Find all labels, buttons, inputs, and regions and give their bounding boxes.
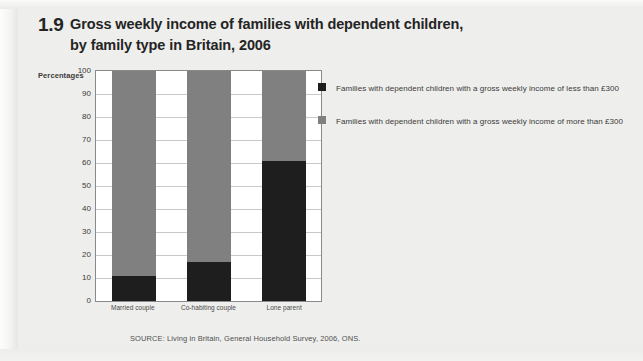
legend-item-2[interactable]: Families with dependent children with a … — [318, 115, 628, 129]
x-axis-label-co-habiting-couple: Co-habiting couple — [173, 304, 243, 311]
x-axis-tick-labels: Married coupleCo-habiting coupleLone par… — [95, 304, 322, 311]
bar-co-habiting-couple[interactable] — [187, 71, 231, 301]
legend-swatch-more-than-300 — [318, 116, 326, 124]
chart-legend: Families with dependent children with a … — [318, 82, 628, 148]
bar-lone-parent[interactable] — [262, 71, 306, 301]
y-axis-tick-100: 100 — [78, 66, 91, 75]
plot-area — [95, 70, 322, 302]
bar-segment-less-than-300[interactable] — [112, 276, 156, 301]
y-axis-tick-60: 60 — [82, 158, 91, 167]
bar-segment-more-than-300[interactable] — [112, 71, 156, 276]
page-top-edge — [0, 0, 643, 9]
y-axis-tick-80: 80 — [82, 112, 91, 121]
y-axis-tick-10: 10 — [82, 273, 91, 282]
figure-number: 1.9 — [38, 14, 70, 35]
bar-married-couple[interactable] — [112, 71, 156, 301]
plot-outer: 1009080706050403020100 Married coupleCo-… — [95, 70, 322, 302]
figure-title-block: 1.9 Gross weekly income of families with… — [38, 14, 468, 56]
figure-page: 1.9 Gross weekly income of families with… — [0, 0, 643, 361]
y-axis-tick-70: 70 — [82, 135, 91, 144]
bar-segment-less-than-300[interactable] — [262, 161, 306, 301]
y-axis-tick-40: 40 — [82, 204, 91, 213]
y-axis-tick-90: 90 — [82, 89, 91, 98]
legend-label-1: Families with dependent children with a … — [336, 82, 619, 96]
legend-swatch-less-than-300 — [318, 83, 326, 91]
page-title: Gross weekly income of families with dep… — [70, 14, 468, 56]
bar-group — [96, 71, 321, 301]
y-axis-tick-0: 0 — [87, 296, 91, 305]
y-axis-tick-labels: 1009080706050403020100 — [71, 70, 91, 300]
page-left-edge — [0, 0, 18, 361]
source-note: SOURCE: Living in Britain, General House… — [130, 334, 360, 343]
bar-segment-more-than-300[interactable] — [262, 71, 306, 161]
x-axis-label-married-couple: Married couple — [98, 304, 168, 311]
legend-item-1[interactable]: Families with dependent children with a … — [318, 82, 628, 96]
y-axis-tick-30: 30 — [82, 227, 91, 236]
page-bottom-edge — [0, 349, 643, 361]
y-axis-tick-20: 20 — [82, 250, 91, 259]
bar-segment-more-than-300[interactable] — [187, 71, 231, 262]
legend-label-2: Families with dependent children with a … — [336, 115, 623, 129]
bar-segment-less-than-300[interactable] — [187, 262, 231, 301]
y-axis-tick-50: 50 — [82, 181, 91, 190]
x-axis-label-lone-parent: Lone parent — [249, 304, 319, 311]
